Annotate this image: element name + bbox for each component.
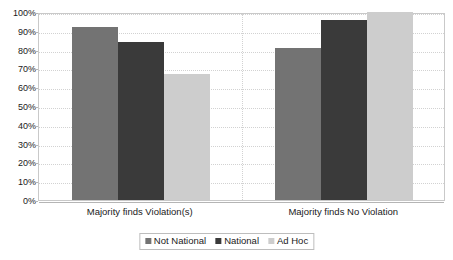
y-axis-tick-label: 80%: [0, 46, 36, 55]
y-axis-tick-label: 10%: [0, 178, 36, 187]
y-axis-tick-mark: [34, 201, 38, 202]
gridline: [39, 202, 444, 203]
y-axis-tick-label: 90%: [0, 27, 36, 36]
legend-item[interactable]: National: [215, 236, 259, 246]
legend-swatch-icon: [268, 238, 274, 244]
legend-item-label: Not National: [154, 236, 206, 246]
y-axis-tick-label: 70%: [0, 65, 36, 74]
bar: [164, 74, 210, 200]
bar: [367, 12, 413, 200]
legend-item-label: National: [224, 236, 259, 246]
category-separator: [242, 14, 243, 200]
legend-item[interactable]: Ad Hoc: [268, 236, 308, 246]
chart-legend: Not NationalNationalAd Hoc: [139, 233, 314, 250]
y-axis-tick-label: 0%: [0, 197, 36, 206]
y-axis-tick-label: 60%: [0, 84, 36, 93]
y-axis: 100%90%80%70%60%50%40%30%20%10%0%: [0, 0, 38, 214]
plot-area: [38, 13, 445, 201]
legend-swatch-icon: [215, 238, 221, 244]
bar: [72, 27, 118, 200]
y-axis-tick-label: 50%: [0, 103, 36, 112]
legend-item-label: Ad Hoc: [277, 236, 308, 246]
y-axis-tick-label: 100%: [0, 9, 36, 18]
legend-swatch-icon: [145, 238, 151, 244]
bar: [118, 42, 164, 200]
x-axis-category-label: Majority finds No Violation: [242, 206, 446, 217]
y-axis-tick-label: 40%: [0, 121, 36, 130]
y-axis-tick-label: 30%: [0, 140, 36, 149]
legend-item[interactable]: Not National: [145, 236, 206, 246]
y-axis-tick-label: 20%: [0, 159, 36, 168]
x-axis-category-label: Majority finds Violation(s): [38, 206, 242, 217]
bar: [275, 48, 321, 200]
bar: [321, 20, 367, 200]
bar-chart: 100%90%80%70%60%50%40%30%20%10%0% Majori…: [0, 0, 453, 260]
